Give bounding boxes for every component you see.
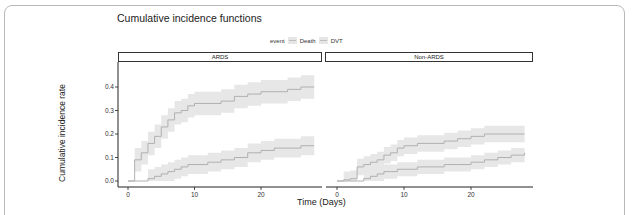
svg-text:0.1: 0.1 — [105, 154, 114, 161]
svg-text:0: 0 — [126, 191, 130, 198]
svg-text:20: 20 — [467, 191, 475, 198]
svg-text:0.0: 0.0 — [105, 177, 114, 184]
plot-canvas: 010200.00.10.20.30.401020 — [0, 0, 632, 215]
y-axis-label: Cumulative incidence rate — [57, 78, 67, 188]
x-axis-label: Time (Days) — [297, 197, 346, 207]
svg-text:0.2: 0.2 — [105, 130, 114, 137]
svg-text:20: 20 — [257, 191, 265, 198]
svg-text:0.4: 0.4 — [105, 83, 114, 90]
svg-text:10: 10 — [400, 191, 408, 198]
svg-text:0.3: 0.3 — [105, 107, 114, 114]
svg-text:10: 10 — [191, 191, 199, 198]
